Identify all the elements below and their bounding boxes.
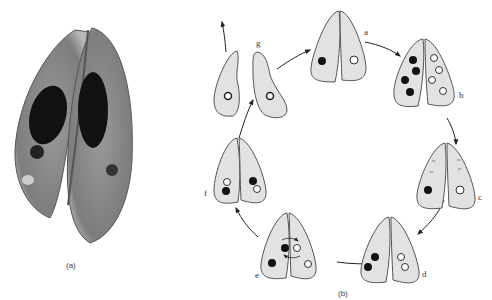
stage-label-e: e: [255, 270, 259, 280]
caption-b: (b): [338, 289, 348, 298]
stage-label-c: c: [478, 192, 482, 202]
stage-g: [214, 51, 287, 118]
stage-label-a: a: [364, 27, 368, 37]
stage-f: [214, 138, 266, 203]
stage-label-g: g: [256, 38, 261, 48]
figure-canvas: (a) a b ≈ ≈ ≈ ≈: [0, 0, 492, 300]
micrograph-panel-a: [15, 28, 132, 243]
stage-label-d: d: [422, 269, 427, 279]
stage-a: [311, 11, 366, 82]
stage-c: ≈ ≈ ≈ ≈: [417, 143, 475, 209]
stage-e: [261, 213, 316, 279]
caption-a: (a): [66, 261, 76, 270]
stage-d: [361, 217, 419, 283]
stage-label-b: b: [459, 90, 464, 100]
stage-b: [394, 39, 454, 107]
stage-label-f: f: [204, 188, 207, 198]
